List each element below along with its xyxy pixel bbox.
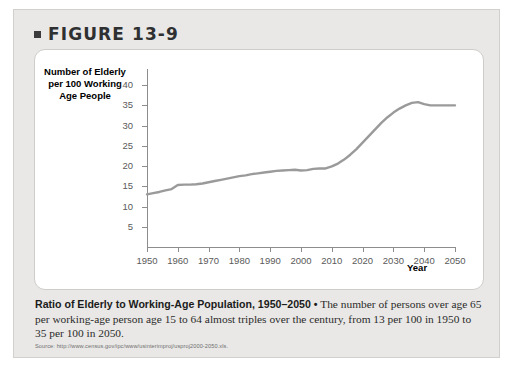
- x-axis-tick-label: 2050: [444, 255, 465, 266]
- x-axis-tick: [301, 247, 302, 252]
- y-axis-tick-label: 10: [122, 201, 133, 212]
- data-series-line: [147, 102, 455, 194]
- x-axis-tick-label: 2010: [321, 255, 342, 266]
- x-axis-tick-label: 2000: [290, 255, 311, 266]
- square-bullet-icon: [34, 31, 41, 38]
- x-axis-tick-label: 1950: [136, 255, 157, 266]
- x-axis-tick-label: 1970: [198, 255, 219, 266]
- y-axis-title: Number of Elderly per 100 Working Age Pe…: [44, 66, 126, 103]
- x-axis-tick-label: 2020: [352, 255, 373, 266]
- figure-heading-label: FIGURE 13-9: [48, 24, 179, 44]
- figure-panel: FIGURE 13-9 Number of Elderly per 100 Wo…: [13, 9, 500, 358]
- x-axis-tick: [332, 247, 333, 252]
- x-axis-tick: [178, 247, 179, 252]
- x-axis-tick: [239, 247, 240, 252]
- y-axis-tick-label: 35: [122, 99, 133, 110]
- x-axis-tick: [363, 247, 364, 252]
- y-axis-tick-label: 15: [122, 180, 133, 191]
- figure-caption: Ratio of Elderly to Working-Age Populati…: [35, 297, 483, 341]
- x-axis-tick-label: 1980: [229, 255, 250, 266]
- x-axis-tick: [424, 247, 425, 252]
- x-axis-tick: [209, 247, 210, 252]
- y-axis-tick-label: 25: [122, 140, 133, 151]
- source-line: Source: http://www.census.gov/ipc/www/us…: [35, 343, 228, 349]
- y-axis-tick-label: 5: [128, 221, 133, 232]
- x-axis-tick: [393, 247, 394, 252]
- data-line-chart: [147, 77, 455, 247]
- x-axis-tick-label: 2030: [383, 255, 404, 266]
- caption-lead: Ratio of Elderly to Working-Age Populati…: [35, 298, 318, 310]
- x-axis-title: Year: [407, 262, 427, 273]
- y-axis-tick-label: 30: [122, 120, 133, 131]
- x-axis-tick: [270, 247, 271, 252]
- y-axis-tick-label: 40: [122, 79, 133, 90]
- x-axis-tick-label: 1960: [167, 255, 188, 266]
- plot-area: 510152025303540 195019601970198019902000…: [147, 77, 455, 247]
- chart-card: Number of Elderly per 100 Working Age Pe…: [34, 49, 484, 290]
- figure-heading: FIGURE 13-9: [34, 24, 179, 44]
- x-axis-tick-label: 1990: [260, 255, 281, 266]
- y-axis-tick-label: 20: [122, 160, 133, 171]
- x-axis-tick: [455, 247, 456, 252]
- x-axis-tick: [147, 247, 148, 252]
